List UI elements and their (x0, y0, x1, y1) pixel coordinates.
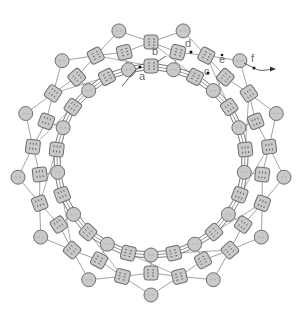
marker-dot-d (189, 50, 192, 53)
outer-circle-node (144, 288, 158, 302)
marker-dot-a (139, 66, 142, 69)
arrow-line-f (244, 63, 272, 70)
outer-circle-node (254, 230, 268, 244)
label-a: a (139, 70, 146, 82)
middle-square-node (261, 139, 277, 155)
inner-square-node (165, 245, 182, 262)
inner-square-node (238, 142, 254, 158)
inner-circle-node (206, 84, 220, 98)
arrow-head-icon (270, 67, 276, 72)
leader-line-b (157, 56, 166, 62)
outer-circle-node (233, 54, 247, 68)
middle-square-node (116, 44, 133, 61)
inner-square-node (78, 222, 98, 242)
inner-square-node (49, 142, 65, 158)
middle-square-node (220, 240, 240, 260)
middle-square-node (169, 44, 186, 61)
middle-square-node (144, 266, 158, 280)
middle-square-node (90, 251, 109, 270)
outer-circle-node (11, 170, 25, 184)
outer-circle-node (82, 273, 96, 287)
label-e: e (219, 53, 225, 65)
inner-circle-node (82, 84, 96, 98)
inner-square-node (186, 67, 205, 86)
inner-circle-node (232, 121, 246, 135)
inner-circle-node (167, 63, 181, 77)
inner-circle-node (51, 165, 65, 179)
inner-square-node (97, 67, 116, 86)
inner-circle-node (237, 165, 251, 179)
middle-square-node (43, 84, 62, 103)
middle-square-node (62, 240, 82, 260)
outer-circle-node (19, 107, 33, 121)
inner-circle-node (122, 63, 136, 77)
inner-square-node (204, 222, 224, 242)
outer-circle-node (112, 24, 126, 38)
middle-square-node (171, 268, 188, 285)
middle-square-node (247, 112, 265, 130)
middle-square-node (49, 215, 68, 234)
middle-square-node (37, 112, 55, 130)
middle-square-node (253, 194, 271, 212)
label-b: b (152, 45, 158, 57)
middle-square-node (114, 268, 131, 285)
middle-square-node (32, 167, 48, 183)
outer-circle-node (269, 107, 283, 121)
ring-network-diagram: a b c d e f (0, 0, 301, 321)
inner-circle-node (100, 237, 114, 251)
outer-circle-node (206, 273, 220, 287)
outer-circle-node (34, 230, 48, 244)
inner-circle-node (144, 248, 158, 262)
outer-circle-node (176, 24, 190, 38)
middle-square-node (31, 194, 49, 212)
middle-square-node (239, 84, 258, 103)
middle-square-node (25, 139, 41, 155)
inner-circle-node (188, 237, 202, 251)
middle-square-node (215, 67, 235, 87)
inner-square-node (231, 186, 249, 204)
inner-circle-node (67, 207, 81, 221)
inner-circle-node (221, 207, 235, 221)
outer-circle-node (277, 170, 291, 184)
middle-square-node (233, 215, 252, 234)
label-c: c (204, 65, 210, 77)
middle-square-node (254, 167, 270, 183)
outer-circle-node (55, 54, 69, 68)
inner-square-node (144, 59, 158, 73)
middle-square-node (194, 251, 213, 270)
label-d: d (185, 37, 191, 49)
inner-square-node (53, 186, 71, 204)
label-f: f (251, 52, 255, 64)
inner-circle-node (56, 121, 70, 135)
inner-square-node (120, 245, 137, 262)
